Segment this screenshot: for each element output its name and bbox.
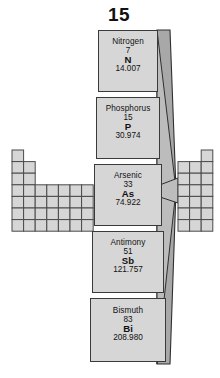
table-cell xyxy=(47,220,59,232)
table-cell xyxy=(201,173,213,185)
table-cell xyxy=(58,196,70,208)
table-cell xyxy=(12,196,24,208)
table-cell xyxy=(178,208,190,220)
table-cell xyxy=(47,196,59,208)
element-card-antimony[interactable]: Antimony 51 Sb 121.757 xyxy=(92,231,164,293)
table-cell xyxy=(24,173,36,185)
table-cell xyxy=(35,220,47,232)
table-cell xyxy=(82,196,94,208)
table-cell xyxy=(24,196,36,208)
table-cell xyxy=(201,220,213,232)
element-mass: 14.007 xyxy=(99,65,157,74)
element-card-arsenic[interactable]: Arsenic 33 As 74.922 xyxy=(94,164,162,226)
table-cell xyxy=(35,196,47,208)
table-cell xyxy=(24,185,36,197)
table-cell xyxy=(190,162,202,174)
table-cell xyxy=(35,208,47,220)
table-cell xyxy=(24,208,36,220)
table-cell xyxy=(47,208,59,220)
table-cell xyxy=(190,196,202,208)
table-cell xyxy=(190,208,202,220)
left-periodic-block xyxy=(12,150,93,231)
table-cell xyxy=(201,196,213,208)
table-cell xyxy=(58,185,70,197)
element-card-nitrogen[interactable]: Nitrogen 7 N 14.007 xyxy=(98,30,158,92)
table-cell xyxy=(12,208,24,220)
table-cell xyxy=(178,185,190,197)
element-mass: 30.974 xyxy=(97,132,159,141)
element-card-bismuth[interactable]: Bismuth 83 Bi 208.980 xyxy=(90,298,166,362)
table-cell xyxy=(201,150,213,162)
table-cell xyxy=(201,162,213,174)
element-card-phosphorus[interactable]: Phosphorus 15 P 30.974 xyxy=(96,97,160,159)
table-cell xyxy=(24,220,36,232)
table-cell xyxy=(178,220,190,232)
right-periodic-block xyxy=(178,150,213,231)
element-mass: 121.757 xyxy=(93,266,163,275)
table-cell xyxy=(12,150,24,162)
table-cell xyxy=(12,220,24,232)
table-cell xyxy=(190,173,202,185)
table-cell xyxy=(70,196,82,208)
table-cell xyxy=(47,185,59,197)
table-cell xyxy=(12,162,24,174)
element-mass: 74.922 xyxy=(95,199,161,208)
table-cell xyxy=(178,162,190,174)
periodic-group-figure: 15 xyxy=(0,0,220,378)
table-cell xyxy=(82,208,94,220)
table-cell xyxy=(201,185,213,197)
table-cell xyxy=(58,220,70,232)
table-cell xyxy=(82,220,94,232)
element-mass: 208.980 xyxy=(91,334,165,343)
table-cell xyxy=(82,185,94,197)
table-cell xyxy=(70,185,82,197)
table-cell xyxy=(58,208,70,220)
table-cell xyxy=(24,162,36,174)
table-cell xyxy=(12,185,24,197)
table-cell xyxy=(35,185,47,197)
table-cell xyxy=(70,220,82,232)
table-cell xyxy=(190,185,202,197)
table-cell xyxy=(70,208,82,220)
table-cell xyxy=(178,196,190,208)
table-cell xyxy=(201,208,213,220)
table-cell xyxy=(178,173,190,185)
table-cell xyxy=(12,173,24,185)
table-cell xyxy=(190,220,202,232)
